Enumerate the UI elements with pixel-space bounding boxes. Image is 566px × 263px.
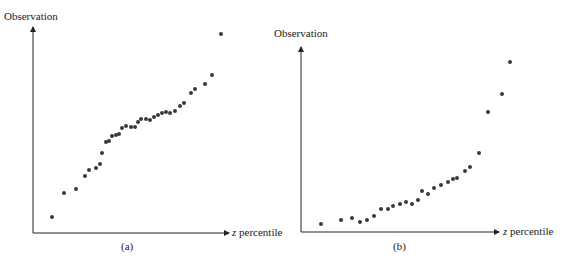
data-point	[350, 216, 354, 220]
data-point	[139, 117, 143, 121]
scatter-points-a	[50, 32, 223, 219]
data-point	[358, 220, 362, 224]
data-point	[164, 110, 168, 114]
data-point	[168, 111, 172, 115]
data-point	[500, 92, 504, 96]
data-point	[508, 60, 512, 64]
panel-caption-b: (b)	[393, 240, 406, 253]
data-point	[451, 177, 455, 181]
data-point	[144, 117, 148, 121]
data-point	[50, 215, 54, 219]
scatter-points-b	[319, 60, 512, 226]
y-axis-label-b: Observation	[274, 27, 328, 39]
data-point	[410, 202, 414, 206]
data-point	[486, 110, 490, 114]
data-point	[193, 87, 197, 91]
data-point	[182, 101, 186, 105]
data-point	[319, 222, 323, 226]
y-axis-label-a: Observation	[4, 10, 58, 22]
data-point	[156, 113, 160, 117]
data-point	[432, 186, 436, 190]
x-axis-label-rest-a: percentile	[236, 226, 282, 238]
figure: Observation z percentile (a) Observation…	[0, 0, 566, 263]
x-axis-label-b: z percentile	[502, 225, 554, 237]
data-point	[439, 183, 443, 187]
data-point	[455, 176, 459, 180]
data-point	[404, 200, 408, 204]
data-point	[398, 202, 402, 206]
data-point	[178, 104, 182, 108]
data-point	[372, 214, 376, 218]
data-point	[110, 134, 114, 138]
data-point	[463, 169, 467, 173]
data-point	[219, 32, 223, 36]
data-point	[446, 180, 450, 184]
data-point	[117, 132, 121, 136]
data-point	[189, 91, 193, 95]
data-point	[100, 151, 104, 155]
data-point	[379, 207, 383, 211]
data-point	[120, 126, 124, 130]
data-point	[124, 124, 128, 128]
panel-caption-a: (a)	[121, 240, 134, 253]
data-point	[203, 82, 207, 86]
data-point	[94, 166, 98, 170]
data-point	[386, 207, 390, 211]
data-point	[83, 174, 87, 178]
data-point	[136, 120, 140, 124]
data-point	[210, 73, 214, 77]
data-point	[416, 198, 420, 202]
data-point	[339, 218, 343, 222]
data-point	[365, 218, 369, 222]
data-point	[468, 165, 472, 169]
data-point	[133, 125, 137, 129]
data-point	[160, 111, 164, 115]
x-axis-label-a: z percentile	[231, 226, 283, 238]
data-point	[152, 115, 156, 119]
data-point	[477, 151, 481, 155]
data-point	[129, 125, 133, 129]
data-point	[148, 118, 152, 122]
data-point	[98, 162, 102, 166]
data-point	[391, 204, 395, 208]
data-point	[420, 189, 424, 193]
x-axis-label-rest-b: percentile	[507, 225, 553, 237]
chart-panel-a: Observation z percentile (a)	[4, 10, 283, 253]
data-point	[426, 192, 430, 196]
data-point	[173, 109, 177, 113]
data-point	[87, 168, 91, 172]
data-point	[107, 139, 111, 143]
data-point	[62, 191, 66, 195]
data-point	[74, 187, 78, 191]
chart-panel-b: Observation z percentile (b)	[274, 27, 554, 253]
